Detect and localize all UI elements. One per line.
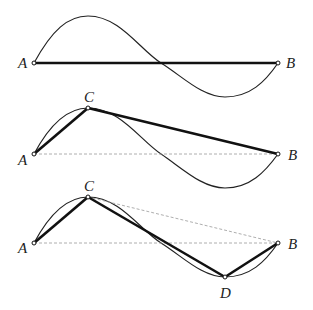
sine-curve: [34, 16, 278, 97]
panel-3: A C B D: [17, 178, 297, 301]
point-a: [32, 152, 36, 156]
point-c: [86, 106, 90, 110]
label-a: A: [17, 240, 28, 256]
point-a: [32, 61, 36, 65]
point-d: [223, 275, 227, 279]
label-c: C: [84, 178, 95, 194]
panel-1: A B: [17, 16, 295, 97]
chord-cb: [88, 108, 278, 154]
label-b: B: [288, 236, 297, 252]
panel-2: A C B: [17, 89, 297, 188]
chord-ac: [34, 108, 88, 154]
sine-curve: [34, 108, 278, 188]
dashed-cb: [88, 197, 278, 243]
diagram-canvas: A B A C B A C B D: [0, 0, 313, 310]
label-b: B: [286, 55, 295, 71]
chord-cd: [88, 197, 225, 277]
label-a: A: [17, 152, 28, 168]
point-c: [86, 195, 90, 199]
point-b: [276, 241, 280, 245]
label-c: C: [84, 89, 95, 105]
chord-db: [225, 243, 278, 277]
point-b: [276, 61, 280, 65]
label-b: B: [288, 147, 297, 163]
label-a: A: [17, 55, 28, 71]
chord-ac: [34, 197, 88, 243]
point-b: [276, 152, 280, 156]
label-d: D: [219, 285, 231, 301]
point-a: [32, 241, 36, 245]
